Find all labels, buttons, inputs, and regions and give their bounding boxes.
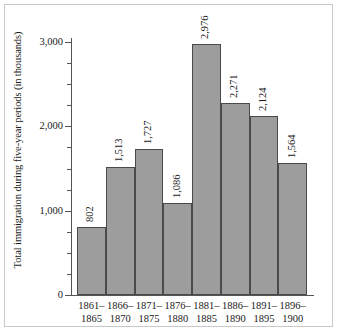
bar: 2,124 (250, 116, 279, 295)
x-axis-category-line: 1885 (192, 312, 221, 325)
y-axis-major-tick (65, 126, 71, 127)
immigration-bar-chart: Total immigration during five-year perio… (0, 0, 337, 331)
y-axis-minor-tick (67, 63, 71, 64)
x-axis-category-line: 1870 (106, 312, 135, 325)
x-axis-category-label: 1886–1890 (221, 299, 250, 331)
plot-area: 8021,5131,7271,0862,9762,2712,1241,564 (77, 20, 307, 295)
x-axis-category-label: 1871–1875 (135, 299, 164, 331)
bar: 1,086 (163, 203, 192, 295)
x-axis-category-line: 1891– (250, 299, 279, 312)
x-axis-category-label: 1896–1900 (278, 299, 307, 331)
x-axis-category-line: 1876– (163, 299, 192, 312)
x-axis-category-line: 1865 (77, 312, 106, 325)
bar-value-label: 802 (85, 207, 95, 223)
x-axis-line (71, 295, 314, 296)
bar: 2,271 (221, 103, 250, 295)
bar-value-label: 1,513 (114, 139, 124, 163)
y-axis-tick-label: 0 (25, 290, 63, 300)
y-axis-line (71, 38, 72, 295)
x-axis-category-line: 1881– (192, 299, 221, 312)
y-axis-minor-tick (67, 169, 71, 170)
y-axis-minor-tick (67, 147, 71, 148)
bar-value-label: 2,124 (258, 87, 268, 111)
x-axis-category-line: 1875 (135, 312, 164, 325)
x-axis-category-label: 1861–1865 (77, 299, 106, 331)
bar-value-label: 2,976 (200, 15, 210, 39)
x-axis-category-line: 1895 (250, 312, 279, 325)
y-axis-major-tick (65, 295, 71, 296)
x-axis-tick-labels: 1861–18651866–18701871–18751876–18801881… (77, 299, 307, 331)
bar-value-label: 1,727 (143, 121, 153, 145)
y-axis-minor-tick (67, 84, 71, 85)
bar-value-label: 2,271 (229, 75, 239, 99)
y-axis-tick-label: 1,000 (25, 206, 63, 216)
y-axis-tick-label: 3,000 (25, 37, 63, 47)
y-axis-major-tick (65, 211, 71, 212)
x-axis-category-line: 1900 (278, 312, 307, 325)
bar-value-label: 1,564 (287, 134, 297, 158)
x-axis-category-line: 1866– (106, 299, 135, 312)
x-axis-category-line: 1890 (221, 312, 250, 325)
y-axis-major-tick (65, 42, 71, 43)
x-axis-category-line: 1896– (278, 299, 307, 312)
bar: 2,976 (192, 44, 221, 295)
x-axis-category-label: 1876–1880 (163, 299, 192, 331)
x-axis-category-label: 1866–1870 (106, 299, 135, 331)
y-axis-minor-tick (67, 105, 71, 106)
x-axis-category-line: 1871– (135, 299, 164, 312)
bar: 802 (77, 227, 106, 295)
bar: 1,564 (278, 163, 307, 295)
y-axis-minor-tick (67, 190, 71, 191)
x-axis-category-line: 1886– (221, 299, 250, 312)
bar-value-label: 1,086 (172, 175, 182, 199)
x-axis-category-label: 1881–1885 (192, 299, 221, 331)
x-axis-category-line: 1861– (77, 299, 106, 312)
y-axis-minor-tick (67, 253, 71, 254)
bar: 1,727 (135, 149, 164, 295)
bar: 1,513 (106, 167, 135, 295)
y-axis-tick-label: 2,000 (25, 121, 63, 131)
x-axis-category-line: 1880 (163, 312, 192, 325)
y-axis-tick-labels: 01,0002,0003,000 (21, 0, 63, 331)
y-axis-minor-tick (67, 274, 71, 275)
y-axis-minor-tick (67, 232, 71, 233)
x-axis-category-label: 1891–1895 (250, 299, 279, 331)
